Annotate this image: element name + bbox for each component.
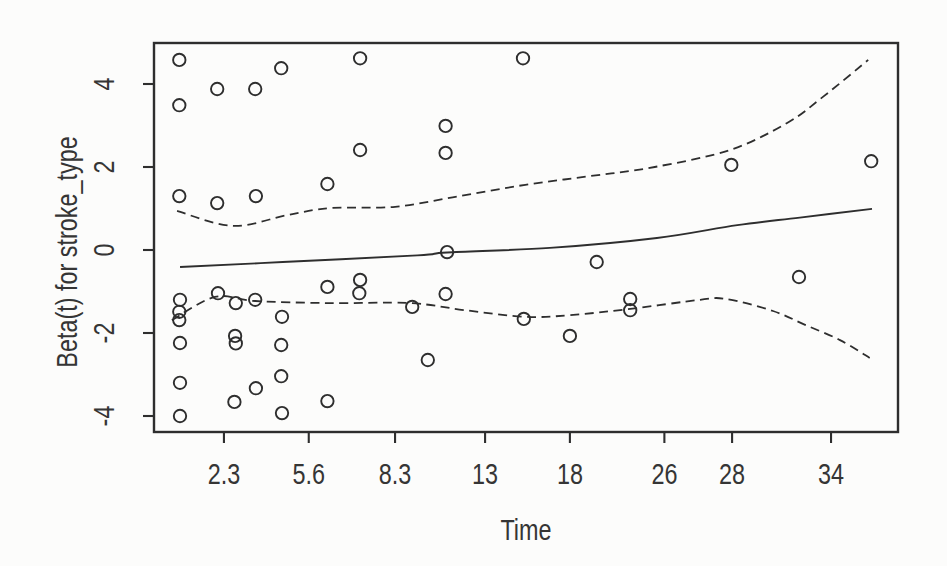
y-tick-label: -4 (87, 406, 120, 427)
x-tick-label: 34 (818, 457, 844, 490)
residual-point (250, 190, 262, 202)
residual-point (439, 288, 451, 300)
x-tick-label: 13 (472, 457, 498, 490)
x-tick-label: 2.3 (208, 457, 241, 490)
x-tick-label: 26 (651, 457, 677, 490)
y-axis-title: Beta(t) for stroke_type (50, 136, 83, 367)
residual-point (353, 287, 365, 299)
residual-point (725, 159, 737, 171)
residual-point (212, 287, 224, 299)
residual-point (250, 382, 262, 394)
residual-point (276, 407, 288, 419)
residual-point (211, 197, 223, 209)
residual-point (865, 155, 877, 167)
residual-point (321, 178, 333, 190)
y-axis: 420-2-4 (87, 77, 154, 426)
residual-point (174, 294, 186, 306)
x-axis: 2.35.68.31318262834 (208, 432, 844, 491)
residual-point (518, 313, 530, 325)
plot-frame (154, 43, 898, 432)
residual-point (173, 99, 185, 111)
scanned-plot-page: 2.35.68.31318262834 420-2-4 Time Beta(t)… (0, 0, 947, 566)
smooth-beta-line (180, 209, 872, 267)
x-tick-label: 28 (719, 457, 745, 490)
residual-point (439, 120, 451, 132)
data-points (173, 52, 877, 422)
residual-point (321, 395, 333, 407)
residual-point (275, 370, 287, 382)
y-tick-label: 4 (87, 77, 120, 90)
residual-point (249, 83, 261, 95)
residual-point (354, 52, 366, 64)
x-axis-title: Time (500, 513, 551, 546)
residual-point (174, 377, 186, 389)
residual-point (228, 396, 240, 408)
residual-point (230, 297, 242, 309)
residual-point (230, 337, 242, 349)
residual-point (354, 274, 366, 286)
residual-point (422, 354, 434, 366)
residual-point (173, 54, 185, 66)
x-tick-label: 18 (557, 457, 583, 490)
y-tick-label: -2 (87, 323, 120, 344)
x-tick-label: 5.6 (292, 457, 325, 490)
residual-point (591, 256, 603, 268)
residual-point (354, 144, 366, 156)
ci-upper-line (177, 60, 868, 226)
residual-point (564, 330, 576, 342)
residual-point (174, 337, 186, 349)
residual-point (275, 339, 287, 351)
y-tick-label: 2 (87, 160, 120, 173)
residual-point (275, 62, 287, 74)
residual-point (439, 147, 451, 159)
residual-point (276, 311, 288, 323)
y-tick-label: 0 (87, 243, 120, 256)
plot-svg: 2.35.68.31318262834 420-2-4 Time Beta(t)… (0, 0, 947, 566)
residual-point (174, 410, 186, 422)
residual-point (173, 190, 185, 202)
residual-point (793, 271, 805, 283)
residual-point (211, 83, 223, 95)
residual-point (249, 294, 261, 306)
x-tick-label: 8.3 (379, 457, 412, 490)
residual-point (517, 52, 529, 64)
residual-point (321, 281, 333, 293)
